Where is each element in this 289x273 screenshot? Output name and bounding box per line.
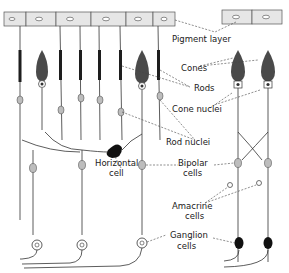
label-cone-nuclei: Cone nuclei [172, 104, 222, 114]
pigment-layer-right [222, 10, 282, 24]
bipolar-cells-left [30, 130, 146, 235]
ganglion-cells-left [20, 238, 147, 268]
label-bipolar-cells-line2: cells [183, 168, 203, 178]
label-cones: Cones [181, 63, 208, 73]
label-amacrine-cells-line2: cells [185, 211, 205, 221]
right-column [224, 50, 275, 267]
label-ganglion-cells-line2: cells [177, 241, 197, 251]
label-pigment-layer: Pigment layer [172, 34, 231, 44]
label-rods: Rods [194, 83, 215, 93]
pigment-layer-left [4, 12, 175, 26]
label-bipolar-cells-line1: Bipolar [178, 158, 208, 168]
label-ganglion-cells-line1: Ganglion [170, 230, 208, 240]
label-rod-nuclei: Rod nuclei [166, 137, 210, 147]
label-horizontal-cell-line1: Horizontal [95, 158, 138, 168]
retina-diagram: Pigment layer Cones Rods Cone nuclei Rod… [0, 0, 289, 273]
cones-left [36, 50, 149, 130]
label-horizontal-cell-line2: cell [109, 168, 124, 178]
label-amacrine-cells-line1: Amacrine [172, 201, 212, 211]
